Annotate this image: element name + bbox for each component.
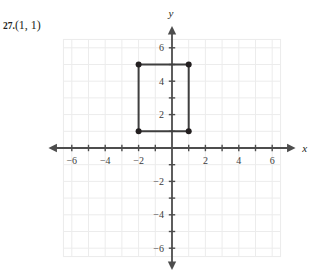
y-axis-label: y [168, 7, 174, 19]
y-tick-label: −6 [153, 243, 164, 254]
y-tick-label: −2 [153, 176, 164, 187]
vertex-point [136, 62, 142, 68]
coordinate-plane-svg: −6−4−2246642−2−4−6 xy [0, 0, 322, 273]
x-tick-label: 4 [236, 155, 241, 166]
y-tick-label: −4 [153, 209, 164, 220]
y-axis-arrow-down [168, 261, 176, 270]
x-tick-label: 2 [203, 155, 208, 166]
y-axis-arrow-up [168, 26, 176, 35]
x-tick-label: 6 [270, 155, 275, 166]
x-tick-label: −2 [133, 155, 144, 166]
coordinate-plane-graph: −6−4−2246642−2−4−6 xy [0, 0, 322, 273]
x-axis-arrow-right [287, 144, 296, 152]
x-axis-label: x [301, 142, 307, 154]
vertex-point [136, 128, 142, 134]
vertex-point [186, 128, 192, 134]
y-tick-label: 4 [159, 76, 164, 87]
worksheet-problem-figure: 27.(1, 1) −6−4−2246642−2−4−6 xy [0, 0, 322, 273]
y-tick-label: 2 [159, 109, 164, 120]
x-tick-label: −6 [66, 155, 77, 166]
y-tick-label: 6 [159, 42, 164, 53]
x-tick-label: −4 [100, 155, 111, 166]
x-axis-arrow-left [48, 144, 57, 152]
vertex-point [186, 62, 192, 68]
axes [48, 26, 295, 270]
